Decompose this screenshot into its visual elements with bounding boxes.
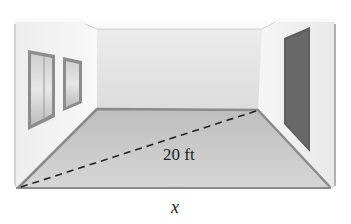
width-variable-label: x <box>171 197 179 218</box>
back-wall <box>97 29 262 109</box>
window-2 <box>63 57 82 111</box>
room-illustration <box>0 0 351 224</box>
window-1 <box>28 50 55 130</box>
diagonal-length-label: 20 ft <box>163 145 195 165</box>
room-diagram: 20 ft x <box>0 0 351 224</box>
